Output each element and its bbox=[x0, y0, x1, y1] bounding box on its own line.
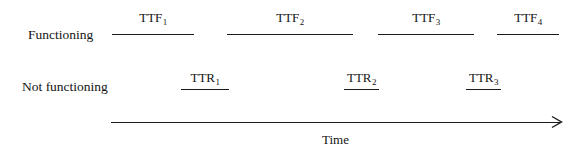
segment-line-ttr-2 bbox=[344, 89, 379, 90]
segment-base-ttr-3: TTR bbox=[469, 70, 494, 85]
segment-label-ttr-3: TTR3 bbox=[466, 71, 501, 84]
segment-line-ttf-2 bbox=[227, 34, 353, 35]
segment-index-ttf-3: 3 bbox=[436, 17, 441, 27]
segment-base-ttf-2: TTF bbox=[276, 10, 299, 25]
segment-base-ttf-1: TTF bbox=[139, 10, 162, 25]
segment-label-ttf-2: TTF2 bbox=[227, 11, 353, 24]
segment-label-ttf-4: TTF4 bbox=[497, 11, 559, 24]
reliability-timeline-diagram: Functioning Not functioning TTF1 TTF2 TT… bbox=[0, 0, 572, 154]
segment-label-ttr-1: TTR1 bbox=[181, 71, 229, 84]
segment-line-ttf-4 bbox=[497, 34, 559, 35]
segment-index-ttr-3: 3 bbox=[494, 77, 499, 87]
segment-line-ttf-1 bbox=[112, 34, 194, 35]
segment-base-ttr-1: TTR bbox=[190, 70, 215, 85]
time-axis-line bbox=[111, 122, 560, 123]
segment-label-ttf-1: TTF1 bbox=[112, 11, 194, 24]
segment-index-ttf-4: 4 bbox=[538, 17, 543, 27]
segment-index-ttf-1: 1 bbox=[163, 17, 168, 27]
state-label-functioning: Functioning bbox=[28, 28, 93, 42]
state-label-not-functioning: Not functioning bbox=[22, 80, 108, 94]
segment-index-ttr-1: 1 bbox=[216, 77, 221, 87]
segment-base-ttf-4: TTF bbox=[514, 10, 537, 25]
segment-base-ttr-2: TTR bbox=[347, 70, 372, 85]
time-axis-caption: Time bbox=[322, 133, 349, 146]
segment-line-ttr-3 bbox=[466, 89, 501, 90]
segment-label-ttf-3: TTF3 bbox=[378, 11, 474, 24]
segment-index-ttf-2: 2 bbox=[300, 17, 305, 27]
segment-line-ttr-1 bbox=[181, 89, 229, 90]
segment-label-ttr-2: TTR2 bbox=[344, 71, 379, 84]
segment-line-ttf-3 bbox=[378, 34, 474, 35]
segment-index-ttr-2: 2 bbox=[372, 77, 377, 87]
segment-base-ttf-3: TTF bbox=[412, 10, 435, 25]
